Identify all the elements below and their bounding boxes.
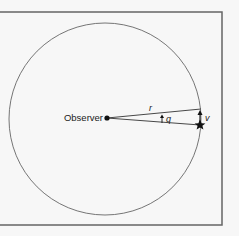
angle-label: q xyxy=(166,114,171,124)
velocity-arrowhead-icon xyxy=(198,110,203,115)
observer-dot xyxy=(104,115,109,120)
lower-ray xyxy=(107,118,200,125)
observer-label: Observer xyxy=(64,112,103,123)
angle-arrowhead-icon xyxy=(160,115,164,119)
velocity-label: v xyxy=(205,113,210,123)
star-icon xyxy=(195,120,206,130)
diagram-canvas: Observer r q v xyxy=(0,0,239,236)
radius-label: r xyxy=(149,103,153,113)
upper-ray-r xyxy=(107,109,201,118)
